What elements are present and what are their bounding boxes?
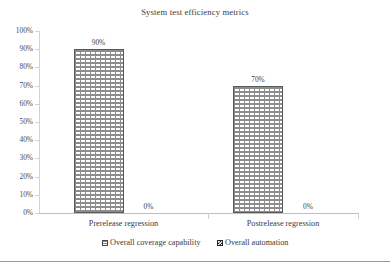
y-axis-tick-mark bbox=[35, 158, 39, 159]
y-axis-tick-label-text: 70% bbox=[3, 81, 33, 90]
y-axis-tick-label: 0% bbox=[0, 208, 33, 218]
bar-chart: System test efficiency metrics 100%90%80… bbox=[0, 0, 390, 271]
legend-swatch-icon-series-1 bbox=[217, 240, 223, 246]
y-axis-tick-mark bbox=[35, 104, 39, 105]
y-axis-tick-label: 60% bbox=[0, 99, 33, 109]
bottom-divider bbox=[0, 261, 390, 262]
y-axis-tick-label: 10% bbox=[0, 190, 33, 200]
y-axis-tick-mark bbox=[35, 31, 39, 32]
y-axis-tick-mark bbox=[35, 67, 39, 68]
bar-1-0[interactable] bbox=[233, 86, 283, 213]
y-axis-tick-label-text: 20% bbox=[3, 172, 33, 181]
y-axis-tick-label: 40% bbox=[0, 135, 33, 145]
chart-legend: Overall coverage capability Overall auto… bbox=[0, 238, 390, 247]
y-axis-tick-label: 50% bbox=[0, 117, 33, 127]
y-axis-tick-label-text: 40% bbox=[3, 135, 33, 144]
y-axis-tick-mark bbox=[35, 177, 39, 178]
bar-value-label: 90% bbox=[74, 38, 124, 47]
legend-label-series-1: Overall automation bbox=[225, 238, 288, 247]
legend-item-overall-automation[interactable]: Overall automation bbox=[217, 238, 289, 247]
y-axis-tick-label-text: 10% bbox=[3, 190, 33, 199]
y-axis-tick-mark bbox=[35, 195, 39, 196]
y-axis-tick-mark bbox=[35, 213, 39, 214]
y-axis-tick-mark bbox=[35, 49, 39, 50]
y-axis-tick-label-text: 50% bbox=[3, 117, 33, 126]
category-end-tick bbox=[358, 213, 359, 219]
legend-item-overall-coverage-capability[interactable]: Overall coverage capability bbox=[102, 238, 201, 247]
y-axis-tick-label: 70% bbox=[0, 81, 33, 91]
category-label-postrelease-regression: Postrelease regression bbox=[208, 219, 358, 228]
y-axis-tick-mark bbox=[35, 122, 39, 123]
y-axis-tick-label: 90% bbox=[0, 44, 33, 54]
bar-value-label: 0% bbox=[283, 202, 333, 211]
y-axis-tick-label-text: 80% bbox=[3, 62, 33, 71]
legend-swatch-icon-series-0 bbox=[102, 240, 108, 246]
y-axis-tick-label-text: 30% bbox=[3, 153, 33, 162]
legend-label-series-0: Overall coverage capability bbox=[110, 238, 200, 247]
y-axis-tick-label: 80% bbox=[0, 62, 33, 72]
y-axis-tick-label: 100% bbox=[0, 26, 33, 36]
y-axis-tick-mark bbox=[35, 140, 39, 141]
y-axis-tick-label: 20% bbox=[0, 172, 33, 182]
bar-0-0[interactable] bbox=[74, 49, 124, 213]
y-axis-tick-label: 30% bbox=[0, 153, 33, 163]
category-label-prerelease-regression: Prerelease regression bbox=[39, 219, 208, 228]
y-axis-tick-mark bbox=[35, 86, 39, 87]
y-axis-tick-label-text: 60% bbox=[3, 99, 33, 108]
x-axis-line bbox=[39, 213, 359, 214]
y-axis-tick-label-text: 90% bbox=[3, 44, 33, 53]
bar-value-label: 70% bbox=[233, 75, 283, 84]
bar-value-label: 0% bbox=[124, 202, 174, 211]
y-axis-tick-label-text: 0% bbox=[3, 208, 33, 217]
y-axis-line bbox=[39, 31, 40, 214]
chart-title: System test efficiency metrics bbox=[0, 7, 390, 17]
y-axis-tick-label-text: 100% bbox=[3, 26, 33, 35]
